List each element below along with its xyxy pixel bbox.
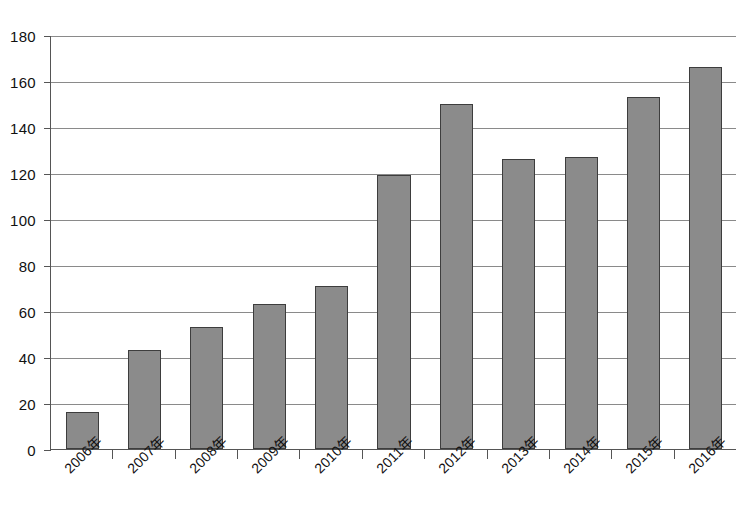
chart-title bbox=[0, 0, 743, 6]
x-axis-tick bbox=[175, 450, 176, 459]
x-axis-tick bbox=[611, 450, 612, 459]
bar bbox=[627, 97, 660, 449]
x-axis-tick bbox=[362, 450, 363, 459]
bar bbox=[190, 327, 223, 449]
plot-area bbox=[50, 36, 736, 450]
y-axis-tick-label: 100 bbox=[10, 212, 36, 229]
y-axis-tick-label: 80 bbox=[19, 258, 36, 275]
y-axis-tick-label: 60 bbox=[19, 304, 36, 321]
bar bbox=[689, 67, 722, 449]
y-axis-tick-label: 140 bbox=[10, 120, 36, 137]
x-axis: 2006年2007年2008年2009年2010年2011年2012年2013年… bbox=[50, 450, 736, 519]
chart-page: 020406080100120140160180 2006年2007年2008年… bbox=[0, 0, 743, 519]
y-axis: 020406080100120140160180 bbox=[0, 36, 44, 450]
x-axis-tick bbox=[237, 450, 238, 459]
bar bbox=[377, 175, 410, 449]
x-axis-tick bbox=[112, 450, 113, 459]
bar bbox=[440, 104, 473, 449]
bar bbox=[315, 286, 348, 449]
y-axis-tick-label: 180 bbox=[10, 28, 36, 45]
plot-inner bbox=[51, 36, 736, 449]
y-axis-tick-label: 40 bbox=[19, 350, 36, 367]
x-axis-tick bbox=[549, 450, 550, 459]
bar bbox=[565, 157, 598, 449]
y-axis-tick-label: 20 bbox=[19, 396, 36, 413]
x-axis-tick bbox=[487, 450, 488, 459]
y-axis-tick-label: 0 bbox=[27, 442, 36, 459]
x-axis-tick bbox=[299, 450, 300, 459]
gridline bbox=[51, 36, 736, 37]
bar bbox=[502, 159, 535, 449]
x-axis-tick bbox=[424, 450, 425, 459]
bar bbox=[253, 304, 286, 449]
gridline bbox=[51, 82, 736, 83]
y-axis-tick-label: 120 bbox=[10, 166, 36, 183]
x-axis-tick bbox=[674, 450, 675, 459]
y-axis-tick-label: 160 bbox=[10, 74, 36, 91]
